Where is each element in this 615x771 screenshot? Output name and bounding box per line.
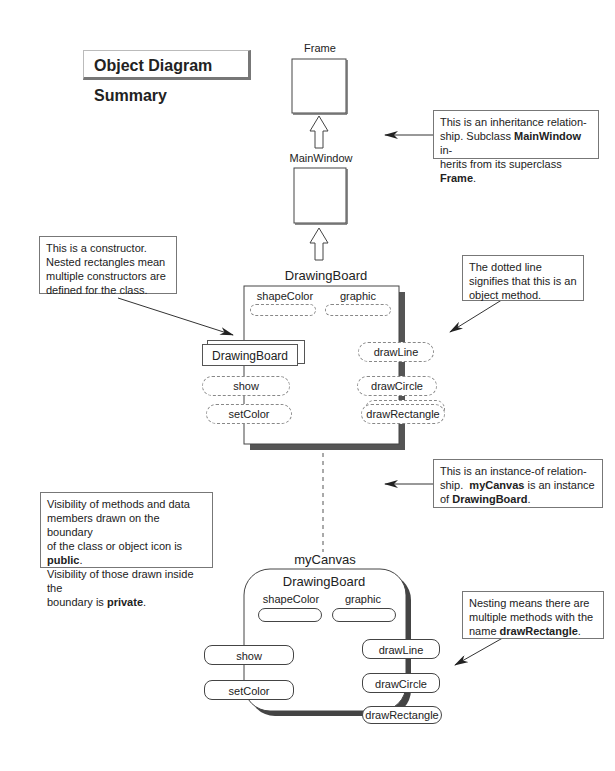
- callout-text: boundary is: [47, 596, 107, 608]
- inheritance-callout: This is an inheritance relation- ship. S…: [433, 110, 599, 159]
- method-drawcircle: drawCircle: [357, 376, 437, 396]
- callout-text: .: [578, 625, 581, 637]
- callout-emphasis: drawRectangle: [500, 625, 578, 637]
- mainwindow-label: MainWindow: [284, 152, 358, 164]
- callout-text: Nesting means there are: [469, 596, 597, 610]
- inheritance-arrow-icon: [310, 228, 328, 260]
- object-name-label: myCanvas: [268, 552, 382, 567]
- callout-text: .: [527, 493, 530, 505]
- visibility-callout: Visibility of methods and data members d…: [40, 492, 213, 568]
- frame-label: Frame: [292, 42, 348, 54]
- callout-emphasis: Frame: [440, 172, 473, 184]
- callout-text: This is an inheritance relation-: [440, 116, 587, 128]
- instance-of-callout: This is an instance-of relation- ship. m…: [433, 459, 603, 508]
- object-method-drawcircle: drawCircle: [362, 673, 440, 693]
- object-method-drawrectangle: drawRectangle: [362, 706, 442, 724]
- object-method-setcolor: setColor: [204, 680, 294, 700]
- constructor-callout-arrow: [118, 298, 233, 335]
- data-member-label: shapeColor: [250, 290, 320, 302]
- object-data-member-label: graphic: [330, 593, 396, 605]
- frame-class-icon: [292, 59, 347, 114]
- object-class-label: DrawingBoard: [266, 574, 382, 589]
- callout-text: of: [440, 493, 452, 505]
- data-member-label: graphic: [325, 290, 391, 302]
- callout-text: .: [143, 596, 146, 608]
- callout-emphasis: DrawingBoard: [452, 493, 527, 505]
- callout-text: is an instance: [524, 479, 594, 491]
- data-member-slot: [325, 304, 391, 316]
- object-data-member-slot: [258, 608, 322, 622]
- mainwindow-class-icon: [294, 168, 347, 224]
- callout-emphasis: public: [47, 554, 79, 566]
- callout-text: ship.: [440, 479, 469, 491]
- method-drawrectangle: drawRectangle: [361, 404, 445, 424]
- constructor-callout: This is a constructor. Nested rectangles…: [39, 236, 177, 294]
- callout-emphasis: MainWindow: [514, 130, 581, 142]
- callout-emphasis: myCanvas: [469, 479, 524, 491]
- callout-text: herits from its superclass: [440, 158, 562, 170]
- callout-text: ship. Subclass: [440, 130, 514, 142]
- data-member-slot: [250, 304, 316, 316]
- drawingboard-label: DrawingBoard: [271, 268, 381, 283]
- nesting-callout: Nesting means there are multiple methods…: [462, 591, 604, 639]
- callout-text: Visibility of methods and data: [47, 497, 206, 511]
- callout-text: of the class or object icon is: [47, 540, 182, 552]
- object-data-member-slot: [332, 608, 396, 622]
- callout-text: in-: [440, 144, 452, 156]
- callout-text: .: [473, 172, 476, 184]
- object-data-member-label: shapeColor: [256, 593, 326, 605]
- object-method-show: show: [204, 645, 294, 665]
- callout-text: Visibility of those drawn inside the: [47, 567, 206, 595]
- callout-text: multiple methods with the: [469, 610, 597, 624]
- method-drawline: drawLine: [358, 342, 434, 362]
- constructor-box: DrawingBoard: [202, 344, 298, 366]
- object-method-drawline: drawLine: [362, 639, 440, 659]
- callout-text: members drawn on the boundary: [47, 511, 206, 539]
- method-show: show: [202, 376, 290, 396]
- callout-text: This is an instance-of relation-: [440, 465, 587, 477]
- callout-text: name: [469, 625, 500, 637]
- inheritance-arrow-icon: [310, 116, 328, 148]
- object-method-callout: The dotted line signifies that this is a…: [462, 255, 584, 301]
- callout-text: .: [79, 554, 82, 566]
- callout-emphasis: private: [107, 596, 143, 608]
- method-setcolor: setColor: [206, 404, 292, 424]
